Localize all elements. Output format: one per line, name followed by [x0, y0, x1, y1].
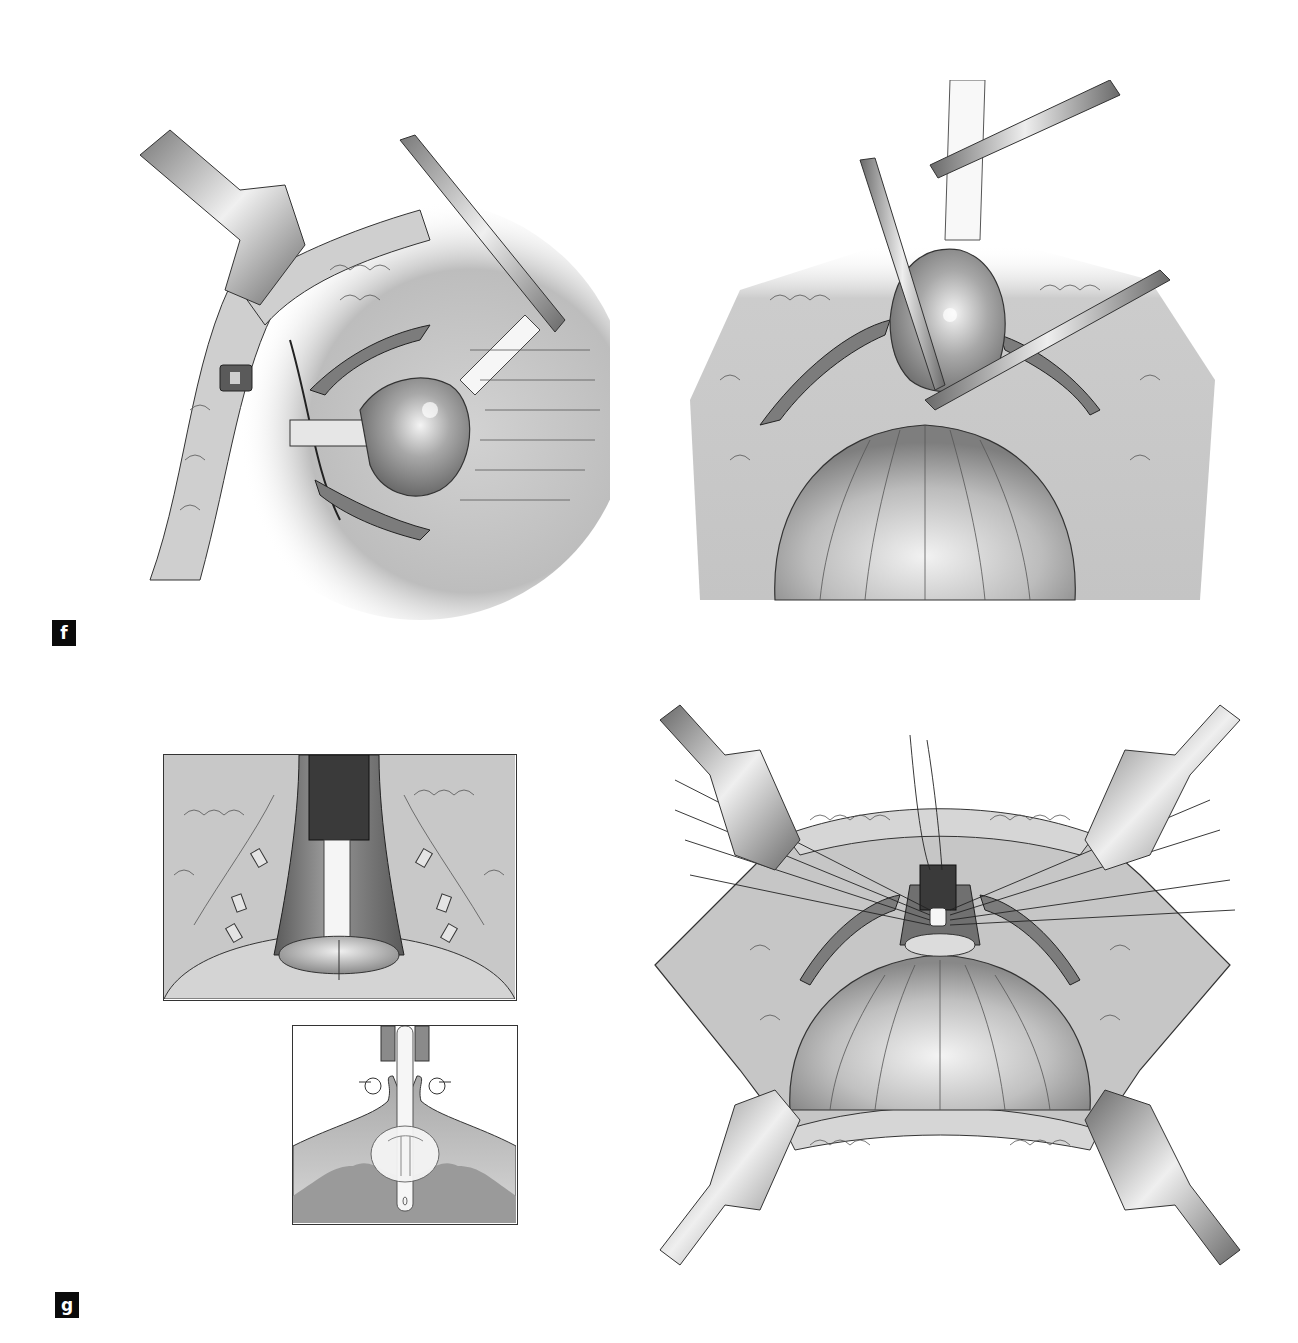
illustration-f-right	[680, 80, 1220, 610]
illustration-g-left-bottom	[293, 1026, 516, 1223]
illustration-f-left	[130, 110, 610, 620]
panel-label-g-text: g	[61, 1297, 73, 1314]
panel-label-g: g	[55, 1292, 79, 1318]
panel-f-left	[130, 110, 610, 620]
panel-g-right	[630, 690, 1250, 1270]
panel-label-f: f	[52, 620, 76, 646]
panel-label-f-text: f	[60, 625, 67, 642]
panel-g-left-top	[163, 754, 517, 1001]
panel-f-right	[680, 80, 1220, 610]
illustration-g-left-top	[164, 755, 515, 999]
illustration-g-right	[630, 690, 1250, 1270]
panel-g-left-bottom	[292, 1025, 518, 1225]
